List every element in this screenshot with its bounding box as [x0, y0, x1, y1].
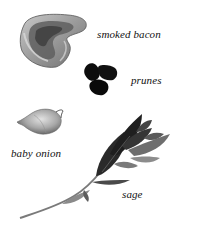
sage-illustration — [18, 110, 178, 222]
ingredients-diagram: smoked bacon prunes baby onion — [0, 0, 199, 232]
smoked-bacon-label: smoked bacon — [97, 28, 161, 40]
sage-label: sage — [122, 188, 143, 200]
prunes-label: prunes — [131, 74, 162, 86]
smoked-bacon-illustration — [18, 11, 90, 69]
prunes-illustration — [83, 62, 121, 96]
